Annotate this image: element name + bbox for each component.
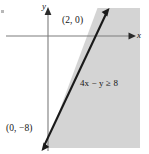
x-axis-label: x [137, 31, 141, 40]
inequality-graph-figure: (2, 0) (0, −8) 4x − y ≥ 8 x y [0, 0, 149, 154]
point-label-x-intercept: (2, 0) [62, 16, 83, 26]
point-label-y-intercept: (0, −8) [6, 124, 33, 134]
y-axis-label: y [42, 2, 46, 11]
inequality-label: 4x − y ≥ 8 [80, 79, 118, 88]
